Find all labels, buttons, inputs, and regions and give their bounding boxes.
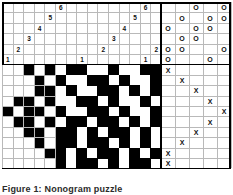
grid-line <box>2 85 55 86</box>
clue-number-3-7: 3 <box>109 36 120 43</box>
grid-cell-filled-r3-1[interactable] <box>44 96 55 107</box>
grid-line <box>2 75 55 76</box>
grid-line <box>161 96 231 97</box>
o-mark-r3c2: O <box>189 35 203 42</box>
clue-number-4-5: 4 <box>119 25 130 32</box>
border-line <box>161 2 231 4</box>
x-mark-r6c2: X <box>189 129 203 136</box>
grid-cell-filled-r3-3[interactable] <box>108 96 119 107</box>
o-mark-r2c0: O <box>161 25 175 32</box>
grid-line <box>119 2 120 64</box>
grid-cell-filled-r3-4[interactable] <box>140 96 151 107</box>
grid-cell-filled-r0-1[interactable] <box>44 64 55 75</box>
clue-number-3-6: 3 <box>24 36 35 43</box>
grid-cell-filled-r5-3[interactable] <box>97 116 119 127</box>
grid-cell-filled-r1-1[interactable] <box>55 75 66 86</box>
grid-line <box>161 23 231 24</box>
grid-cell-filled-r8-1[interactable] <box>76 148 87 159</box>
grid-cell-filled-r6-2[interactable] <box>87 127 98 138</box>
grid-cell-filled-r8-3[interactable] <box>129 148 140 159</box>
grid-cell-filled-r6-4[interactable] <box>140 127 151 138</box>
grid-line <box>2 137 55 138</box>
grid-line <box>161 44 231 45</box>
grid-line <box>97 2 98 64</box>
border-line <box>2 2 4 64</box>
grid-cell-filled-r6-3[interactable] <box>108 127 130 138</box>
grid-cell-filled-r7-2[interactable] <box>87 137 109 148</box>
x-mark-r2c2: X <box>189 87 203 94</box>
grid-cell-filled-r5-1[interactable] <box>44 116 55 127</box>
grid-cell-filled-r2-2[interactable] <box>97 85 119 96</box>
border-line <box>161 64 231 66</box>
grid-cell-filled-r6-1[interactable] <box>55 127 77 138</box>
grid-cell-filled-r7-0[interactable] <box>34 137 45 148</box>
grid-line <box>161 137 231 138</box>
x-mark-r0c0: X <box>161 66 175 73</box>
grid-line <box>161 158 231 159</box>
grid-line <box>76 2 77 64</box>
grid-cell-filled-r0-0[interactable] <box>23 64 34 75</box>
grid-line <box>161 54 231 55</box>
grid-line <box>2 158 55 159</box>
grid-line <box>2 64 3 168</box>
x-mark-r1c1: X <box>175 77 189 84</box>
grid-line <box>203 64 204 168</box>
grid-cell-filled-r4-3[interactable] <box>87 106 109 117</box>
border-line <box>2 2 161 4</box>
grid-line <box>231 2 232 64</box>
grid-line <box>2 106 55 107</box>
grid-line <box>175 2 176 64</box>
grid-cell-filled-r2-3[interactable] <box>129 85 140 96</box>
border-line <box>161 168 231 170</box>
grid-line <box>231 64 232 168</box>
grid-line <box>2 44 161 45</box>
grid-line <box>161 33 231 34</box>
grid-line <box>2 148 55 149</box>
grid-cell-filled-r5-2[interactable] <box>66 116 88 127</box>
grid-line <box>161 148 231 149</box>
grid-line <box>13 2 14 64</box>
grid-line <box>129 2 130 64</box>
grid-cell-filled-r7-4[interactable] <box>140 137 151 148</box>
grid-line <box>23 64 24 168</box>
o-mark-r1c3: O <box>203 14 217 21</box>
grid-line <box>2 54 161 55</box>
grid-cell-filled-r2-1[interactable] <box>66 85 77 96</box>
border-line <box>160 2 162 64</box>
grid-cell-filled-r0-4[interactable] <box>140 64 162 75</box>
border-line <box>229 64 231 168</box>
grid-cell-filled-r4-0[interactable] <box>2 106 13 117</box>
grid-cell-filled-r0-2[interactable] <box>66 64 88 75</box>
grid-cell-filled-r4-4[interactable] <box>119 106 130 117</box>
x-mark-r5c3: X <box>203 118 217 125</box>
grid-line <box>2 12 161 13</box>
grid-line <box>161 12 231 13</box>
border-line <box>160 64 162 168</box>
x-mark-r8c0: X <box>161 150 175 157</box>
clue-number-5-3: 5 <box>130 15 141 22</box>
grid-cell-filled-r8-2[interactable] <box>97 148 119 159</box>
grid-cell-filled-r7-1[interactable] <box>55 137 77 148</box>
grid-cell-filled-r1-0[interactable] <box>34 75 45 86</box>
grid-line <box>161 127 231 128</box>
grid-cell-filled-r5-4[interactable] <box>129 116 140 127</box>
grid-line <box>161 116 231 117</box>
figure-caption: Figure 1: Nonogram puzzle <box>2 184 231 195</box>
grid-line <box>55 64 56 168</box>
o-mark-r4c0: O <box>161 46 175 53</box>
x-mark-r9c0: X <box>161 160 175 167</box>
grid-cell-filled-r7-3[interactable] <box>119 137 130 148</box>
grid-line <box>2 96 55 97</box>
clue-number-6-1: 6 <box>140 5 151 12</box>
grid-cell-filled-r0-3[interactable] <box>108 64 119 75</box>
grid-cell-filled-r3-2[interactable] <box>76 96 98 107</box>
border-line <box>2 64 161 66</box>
grid-cell-filled-r4-2[interactable] <box>55 106 66 117</box>
grid-line <box>161 75 231 76</box>
grid-line <box>13 64 14 168</box>
grid-cell-filled-r1-2[interactable] <box>87 75 109 86</box>
grid-cell-filled-r1-3[interactable] <box>119 75 130 86</box>
grid-line <box>34 64 35 168</box>
o-mark-r2c3: O <box>203 25 217 32</box>
grid-line <box>189 64 190 168</box>
